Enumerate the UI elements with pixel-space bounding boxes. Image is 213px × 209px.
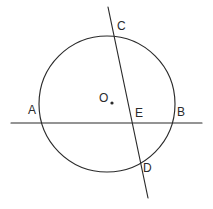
geometry-figure: O A B C D E bbox=[0, 0, 213, 209]
label-point-D: D bbox=[143, 162, 152, 174]
label-point-B: B bbox=[177, 106, 185, 118]
chord-line-cd bbox=[108, 7, 148, 198]
label-point-A: A bbox=[28, 104, 36, 116]
label-point-C: C bbox=[117, 20, 126, 32]
label-point-E: E bbox=[135, 107, 143, 119]
label-point-O: O bbox=[99, 92, 108, 104]
center-point-dot bbox=[110, 101, 113, 104]
